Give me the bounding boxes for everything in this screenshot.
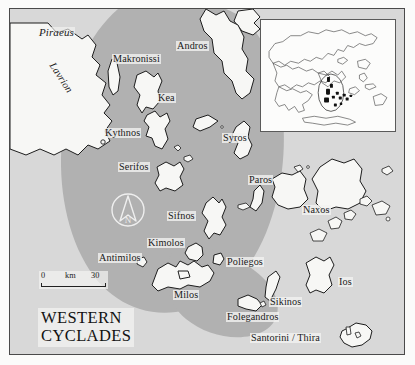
scale-bar-rule <box>41 283 106 287</box>
greece-inset-map <box>260 19 396 132</box>
islet-east-small <box>386 217 390 221</box>
scale-label-zero: 0 <box>41 271 45 280</box>
scale-label-unit: km <box>65 271 76 280</box>
north-arrow: N <box>109 191 147 229</box>
island-thirasia <box>346 327 351 335</box>
inset-background <box>261 20 395 131</box>
scale-bar: 0 km 30 <box>39 271 108 289</box>
lavrion-harbour-marker <box>101 140 105 144</box>
scale-label-max: 30 <box>91 271 99 280</box>
islet-near-tinos <box>221 126 224 129</box>
island-naxos <box>312 159 366 211</box>
greece-inset-graphic <box>261 20 395 131</box>
map-title-line-2: CYCLADES <box>41 327 131 345</box>
map-title-line-1: WESTERN <box>41 309 131 327</box>
western-cyclades-map: Piraeus Lavrion Makronissi Kea Kythnos S… <box>0 0 415 365</box>
islet-paros-ne <box>307 166 310 169</box>
compass-north-letter: N <box>125 215 132 225</box>
map-title: WESTERN CYCLADES <box>38 308 134 347</box>
map-frame: Piraeus Lavrion Makronissi Kea Kythnos S… <box>9 8 405 355</box>
island-serifos <box>155 162 184 191</box>
island-paros <box>272 171 308 209</box>
north-arrow-graphic: N <box>109 191 147 229</box>
